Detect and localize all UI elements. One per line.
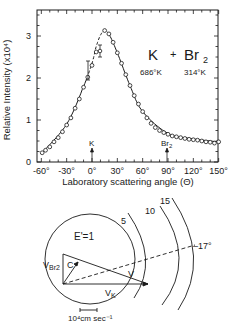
y-axis-label: Relative Intensity (x10⁴)	[1, 40, 12, 141]
legend-temp-k: 686°K	[140, 68, 163, 77]
data-point	[94, 50, 98, 54]
data-point	[137, 102, 141, 106]
data-point	[217, 140, 221, 144]
data-point	[213, 141, 217, 145]
beam-markers: K Br2	[89, 139, 173, 162]
data-point	[44, 148, 48, 152]
y-tick-label: 0	[26, 157, 31, 167]
data-point	[56, 136, 60, 140]
svg-text:15: 15	[160, 196, 170, 206]
y-tick-label: 2	[26, 73, 31, 83]
contour-15	[172, 198, 194, 310]
x-tick-label: 30°	[111, 166, 125, 176]
svg-text:C: C	[67, 260, 74, 270]
data-point	[107, 32, 111, 36]
data-point	[179, 136, 183, 140]
legend-title: K	[148, 46, 158, 63]
data-point	[82, 85, 86, 89]
data-point	[52, 140, 56, 144]
data-point	[204, 140, 208, 144]
x-tick-label: 0°	[88, 166, 97, 176]
data-point	[170, 134, 174, 138]
data-point	[162, 131, 166, 135]
svg-text:Br2: Br2	[161, 139, 173, 149]
data-point	[120, 61, 124, 65]
data-point	[183, 137, 187, 141]
data-point	[90, 64, 94, 68]
data-point	[124, 73, 128, 77]
svg-text:2: 2	[203, 55, 208, 65]
data-point	[111, 40, 115, 44]
data-point	[128, 84, 132, 88]
data-point	[40, 151, 44, 155]
svg-text:5: 5	[121, 216, 126, 226]
data-point	[191, 138, 195, 142]
data-point	[115, 51, 119, 55]
data-point	[69, 116, 73, 120]
svg-text:+: +	[170, 48, 176, 60]
data-point	[196, 138, 200, 142]
newton-diagram	[45, 198, 195, 312]
contour-10	[160, 206, 179, 305]
data-point	[145, 116, 149, 120]
data-point	[187, 137, 191, 141]
figure: -60°-30°0°30°60°90°120°150° 0123 Relativ…	[0, 0, 241, 335]
error-bars	[86, 45, 102, 80]
x-tick-label: -60°	[33, 166, 50, 176]
svg-text:10⁴cm sec⁻¹: 10⁴cm sec⁻¹	[68, 314, 113, 323]
data-point	[153, 126, 157, 130]
data-point	[65, 123, 69, 127]
data-point	[158, 129, 162, 133]
data-point	[149, 121, 153, 125]
marker-k-label: K	[89, 139, 95, 148]
svg-text:VK: VK	[105, 288, 116, 299]
unit-circle	[45, 214, 135, 304]
svg-text:Br: Br	[184, 46, 199, 63]
legend-temp-br2: 314°K	[184, 68, 207, 77]
svg-text:E'=1: E'=1	[74, 231, 94, 242]
x-tick-label: 150°	[209, 166, 228, 176]
x-tick-labels: -60°-30°0°30°60°90°120°150°	[33, 166, 228, 176]
data-point	[61, 130, 65, 134]
data-point	[77, 97, 81, 101]
data-point	[166, 132, 170, 136]
svg-text:V: V	[128, 269, 134, 279]
svg-text:–17°: –17°	[193, 241, 212, 251]
data-point	[141, 110, 145, 114]
data-point	[175, 135, 179, 139]
data-point	[200, 139, 204, 143]
x-tick-label: 120°	[184, 166, 203, 176]
diagram-labels: E'=1 5 10 15 –17° VBr2 C V VK 10⁴cm sec⁻…	[43, 196, 212, 323]
data-point	[73, 106, 77, 110]
data-point	[103, 29, 107, 33]
data-point	[132, 94, 136, 98]
legend: K + Br 2 686°K 314°K	[140, 46, 208, 77]
x-tick-label: 90°	[161, 166, 175, 176]
y-tick-label: 1	[26, 115, 31, 125]
x-tick-label: 60°	[136, 166, 150, 176]
x-tick-label: -30°	[58, 166, 75, 176]
x-axis-label: Laboratory scattering angle (Θ)	[62, 176, 193, 187]
svg-text:VBr2: VBr2	[43, 260, 60, 271]
data-point	[48, 145, 52, 149]
data-point	[208, 140, 212, 144]
y-tick-label: 3	[26, 31, 31, 41]
y-tick-labels: 0123	[26, 31, 31, 167]
svg-text:10: 10	[145, 206, 155, 216]
